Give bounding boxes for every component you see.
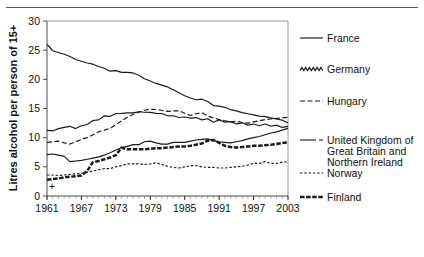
- x-tick-label: 1967: [70, 202, 94, 214]
- legend-label[interactable]: France: [327, 32, 360, 44]
- legend-label[interactable]: Germany: [327, 63, 371, 75]
- legend-label[interactable]: Norway: [327, 167, 363, 179]
- legend-swatch: [300, 67, 323, 70]
- y-tick-label: 10: [28, 131, 40, 143]
- y-tick-label: 0: [34, 190, 40, 202]
- series-line: [47, 128, 288, 161]
- plot-frame: [47, 21, 288, 196]
- y-axis-title: Litres alcohol per person of 15+: [7, 25, 19, 192]
- y-tick-label: 25: [28, 44, 40, 56]
- y-tick-label: 30: [28, 15, 40, 27]
- y-tick-label: 15: [28, 102, 40, 114]
- chart-figure: 051015202530 196119671973197919851991199…: [0, 0, 424, 257]
- x-tick-label: 1979: [139, 202, 163, 214]
- y-tick-label: 5: [34, 160, 40, 172]
- series-layer: [47, 44, 288, 179]
- x-tick-label: 1985: [173, 202, 197, 214]
- x-tick-label: 1961: [35, 202, 59, 214]
- y-axis: 051015202530: [28, 15, 47, 202]
- legend-label[interactable]: Hungary: [327, 95, 367, 107]
- legend-label[interactable]: Finland: [327, 191, 362, 203]
- x-tick-label: 1997: [242, 202, 266, 214]
- line-chart: 051015202530 196119671973197919851991199…: [0, 0, 424, 257]
- y-tick-label: 20: [28, 73, 40, 85]
- x-tick-label: 1973: [104, 202, 128, 214]
- chart-legend: FranceGermanyHungaryUnited Kingdom ofGre…: [300, 32, 413, 203]
- plus-annotation: +: [49, 180, 55, 192]
- top-divider-rule: [6, 7, 418, 8]
- x-tick-label: 2003: [276, 202, 300, 214]
- x-tick-label: 1991: [207, 202, 231, 214]
- x-axis: 19611967197319791985199119972003: [35, 196, 300, 214]
